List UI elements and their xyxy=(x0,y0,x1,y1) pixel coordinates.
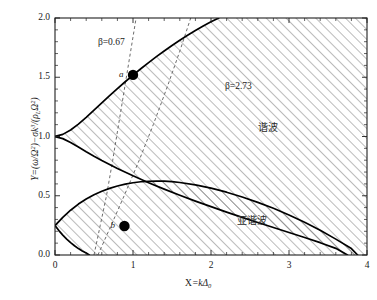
y-axis-title-omega: ω xyxy=(30,159,40,166)
beta-2-73-annotation: β=2.73 xyxy=(225,82,252,92)
y-axis-title-bigomega2: Ω xyxy=(30,103,40,110)
x-axis-title-sub: 0 xyxy=(208,282,211,289)
y-axis-title: Y=(ω/Ω2)−σk3/(ρLΩ2) xyxy=(30,97,40,180)
x-tick-label: 1 xyxy=(123,261,143,271)
y-axis-title-subL: L xyxy=(34,110,41,114)
x-tick-label: 3 xyxy=(279,261,299,271)
y-axis-title-bigomega: Ω xyxy=(30,149,40,156)
y-axis-title-rho: ρ xyxy=(30,114,40,119)
y-axis-title-minus: − xyxy=(30,136,40,142)
y-tick-label: 2.0 xyxy=(24,13,50,23)
y-axis-title-wrapper: Y=(ω/Ω2)−σk3/(ρLΩ2) xyxy=(24,59,42,219)
data-point-a-label: a xyxy=(119,70,124,79)
y-tick-label: 0.0 xyxy=(24,250,50,260)
x-axis-title: X=kΔ0 xyxy=(185,279,211,289)
y-axis-title-sigma: σ xyxy=(30,132,40,137)
beta-0-67-annotation: β=0.67 xyxy=(98,38,125,48)
x-tick-label: 4 xyxy=(357,261,377,271)
harmonic-region-label: 谐波 xyxy=(258,123,278,133)
y-axis-title-div: /( xyxy=(30,118,40,124)
x-tick-label: 0 xyxy=(45,261,65,271)
y-axis-title-sup3: 3 xyxy=(29,124,36,127)
y-axis-title-sup2: 2 xyxy=(29,146,36,149)
y-axis-title-sup2b: 2 xyxy=(29,100,36,103)
y-axis-title-tail: ) xyxy=(30,97,40,100)
data-point-a-marker[interactable] xyxy=(128,70,138,80)
data-point-b-label: b xyxy=(110,221,115,230)
x-axis-title-eq: =k xyxy=(192,278,203,288)
x-axis-title-var: X xyxy=(185,278,192,288)
subharmonic-region-label: 亚谐波 xyxy=(237,216,267,226)
x-tick-label: 2 xyxy=(201,261,221,271)
data-point-b-marker[interactable] xyxy=(119,221,129,231)
instability-boundary-chart xyxy=(0,0,377,300)
y-axis-title-eq: =( xyxy=(30,165,40,175)
figure-container: 0.00.51.01.52.0 01234 X=kΔ0 Y=(ω/Ω2)−σk3… xyxy=(0,0,377,300)
y-axis-title-var: Y xyxy=(30,175,40,180)
